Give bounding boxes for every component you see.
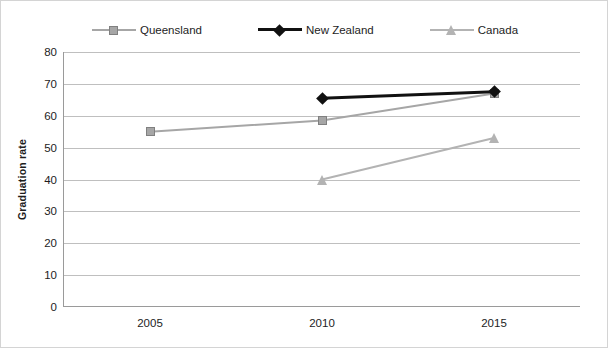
legend-item-queensland[interactable]: Queensland (92, 23, 202, 37)
plot-wrapper: 80706050403020100 200520102015 (63, 52, 579, 307)
gridline (64, 116, 580, 117)
y-tick-label: 0 (51, 301, 57, 313)
x-tick-label: 2015 (481, 317, 507, 329)
y-tick-label: 50 (44, 142, 57, 154)
diamond-marker-icon (274, 24, 287, 37)
legend-label-canada: Canada (478, 24, 518, 36)
gridline (64, 180, 580, 181)
legend-label-queensland: Queensland (140, 24, 202, 36)
y-tick-label: 30 (44, 205, 57, 217)
y-axis-title: Graduation rate (15, 52, 29, 307)
series-line-canada (322, 138, 494, 179)
data-point-queensland-2015 (490, 89, 499, 98)
plot-area: 80706050403020100 200520102015 (63, 52, 579, 307)
y-tick-label: 10 (44, 269, 57, 281)
data-point-queensland-2005 (146, 127, 155, 136)
x-axis-line (64, 306, 580, 307)
queensland-legend-swatch (92, 23, 136, 37)
y-tick-label: 40 (44, 174, 57, 186)
data-point-new-zealand-2015 (488, 85, 501, 98)
gridline (64, 243, 580, 244)
chart-legend: Queensland New Zealand Canada (1, 19, 608, 41)
x-tick-label: 2005 (137, 317, 163, 329)
gridline (64, 275, 580, 276)
y-tick-label: 20 (44, 237, 57, 249)
canada-legend-swatch (430, 23, 474, 37)
chart-container: Queensland New Zealand Canada Graduation… (0, 0, 608, 348)
gridline (64, 148, 580, 149)
gridline (64, 211, 580, 212)
gridline (64, 52, 580, 53)
new-zealand-legend-swatch (258, 23, 302, 37)
y-tick-label: 70 (44, 78, 57, 90)
series-line-queensland (150, 93, 494, 131)
triangle-marker-icon (446, 25, 456, 35)
square-marker-icon (109, 26, 118, 35)
series-line-new-zealand (322, 92, 494, 98)
gridline (64, 84, 580, 85)
legend-label-new-zealand: New Zealand (306, 24, 374, 36)
x-tick-label: 2010 (309, 317, 335, 329)
data-point-queensland-2010 (318, 116, 327, 125)
legend-item-canada[interactable]: Canada (430, 23, 518, 37)
data-point-canada-2015 (489, 133, 499, 143)
y-tick-label: 60 (44, 110, 57, 122)
y-tick-label: 80 (44, 46, 57, 58)
data-point-new-zealand-2010 (316, 92, 329, 105)
legend-item-new-zealand[interactable]: New Zealand (258, 23, 374, 37)
